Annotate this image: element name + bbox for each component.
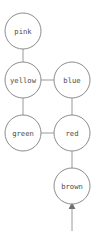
incoming-arrow-brown [69, 202, 76, 231]
node-red-label: red [66, 129, 79, 138]
node-blue[interactable]: blue [54, 62, 90, 98]
node-green[interactable]: green [5, 115, 41, 151]
node-blue-label: blue [63, 76, 80, 85]
node-yellow-label: yellow [10, 76, 37, 85]
node-pink-label: pink [14, 27, 32, 36]
node-brown[interactable]: brown [54, 168, 90, 204]
graph-diagram: pink yellow blue green red brown [0, 0, 96, 232]
node-pink[interactable]: pink [5, 13, 41, 49]
node-yellow[interactable]: yellow [5, 62, 41, 98]
node-green-label: green [12, 129, 34, 138]
node-red[interactable]: red [54, 115, 90, 151]
node-brown-label: brown [61, 182, 83, 191]
